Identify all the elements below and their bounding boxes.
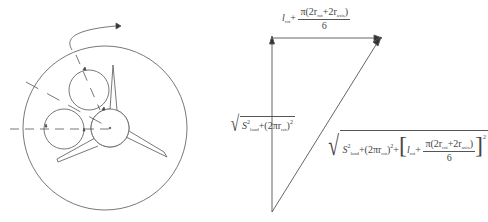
sqrt-radicand: S2load+(2πrrot)2+[lrot+ π(2rrot+2raxis) … [340,130,488,163]
top-fraction: π(2rrot+2raxis) 6 [298,7,350,31]
sqrt-expression: √ S2load+(2πrrot)2 [229,113,295,135]
upper-roller-circle [69,70,109,110]
vertical-vector-label: √ S2load+(2πrrot)2 [229,113,295,135]
plus-sign: + [290,12,296,23]
sqrt-symbol-icon: √ [328,132,339,160]
rotation-arrowhead-icon [116,23,121,29]
sqrt-symbol-icon: √ [231,113,239,135]
sqrt-expression: √ S2load+(2πrrot)2+[lrot+ π(2rrot+2raxis… [326,130,488,163]
blade-left [57,138,98,162]
vertical-arrowhead-icon [270,36,275,44]
blade-top [110,65,117,110]
fraction-numerator: π(2rrot+2raxis) [298,7,350,20]
sqrt-radicand: S2load+(2πrrot)2 [240,116,295,132]
left-mechanism-figure [10,23,187,210]
fraction-denominator: 6 [298,20,350,31]
hypotenuse-vector-label: √ S2load+(2πrrot)2+[lrot+ π(2rrot+2raxis… [326,130,488,163]
hyp-fraction: π(2rrot+2raxis) 6 [423,139,475,163]
dashed-upper-line [76,55,100,110]
top-vector-label: lrot+ π(2rrot+2raxis) 6 [282,7,350,31]
blade-right [126,131,167,157]
